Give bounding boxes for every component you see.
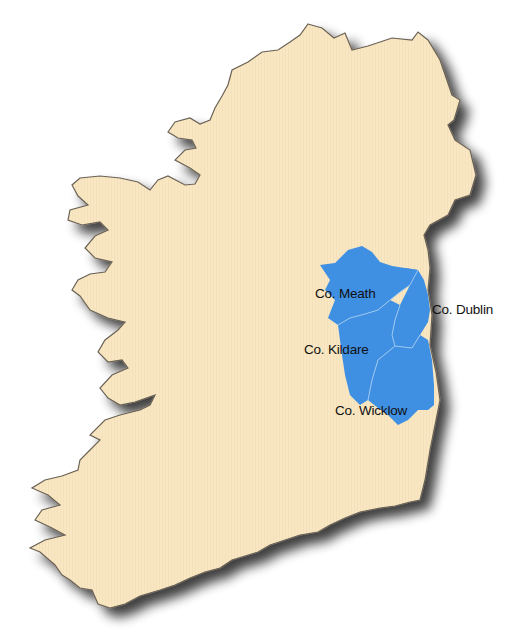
label-co-kildare: Co. Kildare: [304, 342, 369, 357]
label-co-wicklow: Co. Wicklow: [335, 403, 407, 418]
label-co-dublin: Co. Dublin: [432, 302, 493, 317]
label-co-meath: Co. Meath: [315, 286, 375, 301]
